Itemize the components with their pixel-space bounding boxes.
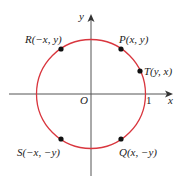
x-tick-label: 1 <box>146 94 152 106</box>
point-t-label: T(y, x) <box>144 65 172 78</box>
point-s-label: S(−x, −y) <box>17 146 60 159</box>
point-p-label: P(x, y) <box>118 33 149 46</box>
diagram-canvas: y x O 1 P(x, y) T(y, x) R(−x, y) S(−x, −… <box>0 0 191 176</box>
x-axis-label: x <box>167 94 173 106</box>
point-t <box>137 68 142 73</box>
unit-circle-diagram: y x O 1 P(x, y) T(y, x) R(−x, y) S(−x, −… <box>0 0 191 176</box>
y-axis-label: y <box>78 10 84 22</box>
point-q-label: Q(x, −y) <box>119 146 157 159</box>
point-s <box>58 136 63 141</box>
origin-label: O <box>80 94 88 106</box>
point-r <box>58 46 63 51</box>
point-r-label: R(−x, y) <box>24 33 62 46</box>
point-q <box>118 136 123 141</box>
point-p <box>118 46 123 51</box>
